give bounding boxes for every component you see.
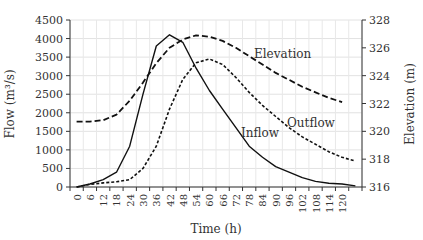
svg-text:0: 0: [72, 194, 83, 200]
svg-text:328: 328: [369, 14, 390, 27]
annotation-inflow: Inflow: [241, 126, 280, 140]
y-axis-title: Flow (m³/s): [3, 69, 17, 138]
svg-text:114: 114: [324, 194, 335, 213]
gridlines: [70, 20, 362, 187]
svg-text:102: 102: [297, 194, 308, 213]
svg-text:2500: 2500: [35, 88, 63, 101]
svg-text:96: 96: [284, 194, 295, 207]
svg-text:326: 326: [369, 42, 390, 55]
svg-text:72: 72: [231, 194, 242, 207]
svg-text:36: 36: [151, 194, 162, 207]
svg-text:108: 108: [311, 194, 322, 213]
svg-text:0: 0: [56, 181, 63, 194]
svg-text:3000: 3000: [35, 70, 63, 83]
svg-text:318: 318: [369, 153, 390, 166]
svg-text:24: 24: [125, 194, 136, 207]
x-axis-title: Time (h): [190, 222, 241, 236]
svg-text:320: 320: [369, 125, 390, 138]
svg-text:316: 316: [369, 181, 390, 194]
svg-text:78: 78: [244, 194, 255, 207]
svg-text:12: 12: [98, 194, 109, 207]
svg-text:60: 60: [204, 194, 215, 207]
svg-text:4000: 4000: [35, 33, 63, 46]
svg-text:2000: 2000: [35, 107, 63, 120]
svg-text:84: 84: [257, 194, 268, 207]
svg-text:324: 324: [369, 70, 390, 83]
svg-text:3500: 3500: [35, 51, 63, 64]
svg-text:120: 120: [337, 194, 348, 213]
svg-text:54: 54: [191, 194, 202, 207]
y2-axis-title: Elevation (m): [403, 63, 417, 145]
svg-text:1000: 1000: [35, 144, 63, 157]
annotation-outflow: Outflow: [287, 116, 336, 130]
svg-text:500: 500: [42, 162, 63, 175]
svg-text:66: 66: [218, 194, 229, 207]
svg-text:322: 322: [369, 98, 390, 111]
svg-text:18: 18: [111, 194, 122, 207]
svg-text:90: 90: [271, 194, 282, 207]
svg-text:48: 48: [178, 194, 189, 207]
hydrograph-chart: 0500100015002000250030003500400045003163…: [0, 0, 423, 240]
svg-text:30: 30: [138, 194, 149, 207]
svg-text:42: 42: [165, 194, 176, 207]
annotation-elevation: Elevation: [254, 47, 312, 61]
svg-text:4500: 4500: [35, 14, 63, 27]
svg-text:6: 6: [85, 194, 96, 200]
svg-text:1500: 1500: [35, 125, 63, 138]
